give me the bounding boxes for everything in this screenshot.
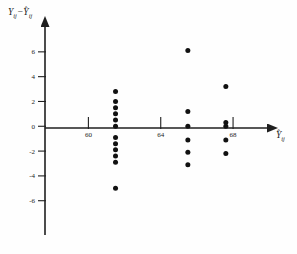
data-point bbox=[113, 118, 118, 123]
y-axis-ticks: 6420-2-4-6 bbox=[29, 48, 46, 205]
data-point bbox=[113, 124, 118, 129]
data-point bbox=[185, 124, 190, 129]
x-tick-label: 68 bbox=[230, 131, 238, 139]
data-point bbox=[113, 186, 118, 191]
data-point bbox=[113, 147, 118, 152]
y-axis-label: Yij−ˆYij bbox=[8, 8, 32, 19]
y-tick-label: 6 bbox=[32, 48, 36, 56]
data-points-layer bbox=[113, 48, 228, 191]
y-tick-label: -2 bbox=[29, 148, 35, 156]
y-tick-label: 0 bbox=[32, 123, 36, 131]
data-point bbox=[185, 162, 190, 167]
plot-canvas: 6420-2-4-6 606468 bbox=[0, 0, 297, 254]
data-point bbox=[113, 89, 118, 94]
data-point bbox=[223, 151, 228, 156]
data-point bbox=[113, 111, 118, 116]
y-tick-label: 4 bbox=[32, 73, 36, 81]
data-point bbox=[223, 84, 228, 89]
data-point bbox=[185, 48, 190, 53]
circumflex-icon: ˆ bbox=[25, 7, 28, 15]
data-point bbox=[185, 150, 190, 155]
x-axis-label: ˆYij bbox=[276, 131, 285, 142]
y-tick-label: -4 bbox=[29, 172, 35, 180]
data-point bbox=[223, 137, 228, 142]
data-point bbox=[113, 154, 118, 159]
x-axis-label-hat-group: ˆY bbox=[276, 131, 281, 141]
residual-plot-figure: 6420-2-4-6 606468 Yij−ˆYij ˆYij bbox=[0, 0, 297, 254]
data-point bbox=[113, 135, 118, 140]
x-tick-label: 64 bbox=[157, 131, 165, 139]
x-axis-label-sub: ij bbox=[281, 135, 285, 142]
data-point bbox=[223, 124, 228, 129]
data-point bbox=[185, 109, 190, 114]
data-point bbox=[113, 105, 118, 110]
y-tick-label: -6 bbox=[29, 197, 35, 205]
y-axis-label-hat-group: ˆY bbox=[23, 8, 28, 18]
y-axis-label-sub2: ij bbox=[29, 12, 33, 19]
data-point bbox=[113, 160, 118, 165]
data-point bbox=[185, 137, 190, 142]
circumflex-icon: ˆ bbox=[277, 130, 280, 138]
y-tick-label: 2 bbox=[32, 98, 36, 106]
data-point bbox=[113, 99, 118, 104]
data-point bbox=[113, 141, 118, 146]
x-tick-label: 60 bbox=[85, 131, 93, 139]
